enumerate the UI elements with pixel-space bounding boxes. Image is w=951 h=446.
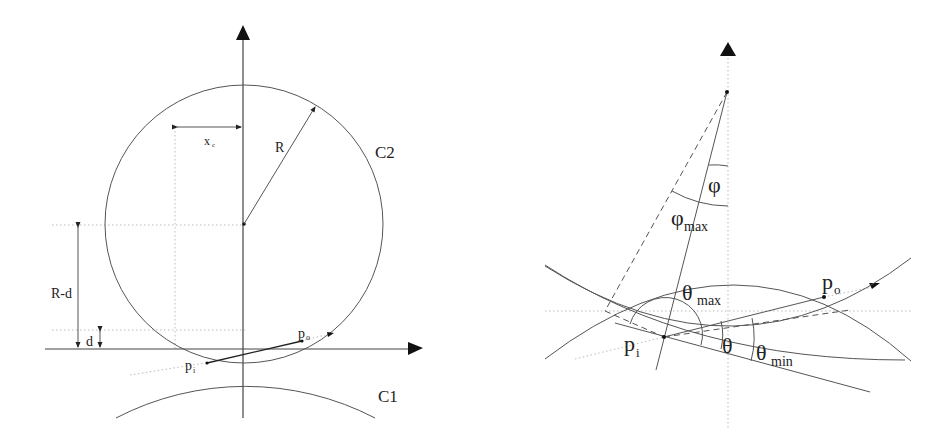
label-theta-max: θ	[682, 280, 693, 305]
label-po-subscript: o	[834, 282, 841, 297]
label-pi: p	[624, 331, 635, 356]
label-po: p	[298, 326, 305, 341]
po-point	[822, 295, 826, 299]
label-R-minus-d: R-d	[51, 286, 72, 301]
label-theta-max-subscript: max	[697, 293, 721, 308]
radius-R-arrow	[244, 107, 315, 224]
phi-max-dashed-line	[605, 92, 727, 311]
pi-incoming-dotted-line	[575, 337, 664, 359]
label-po: p	[822, 269, 833, 294]
label-pi-subscript: i	[193, 366, 196, 375]
label-R: R	[275, 140, 285, 155]
horizontal-axis-arrowhead-icon	[408, 342, 423, 355]
label-theta-min: θ	[756, 340, 767, 365]
right-diagram: φ φ max θ max θ θ min p o p i	[545, 42, 912, 428]
label-C2: C2	[375, 143, 395, 162]
vertical-axis-arrowhead-icon	[720, 42, 736, 56]
label-xc: x	[204, 134, 210, 148]
left-diagram: x c R C2 C1 R-d d p o p i	[45, 25, 423, 418]
circle-C1-arc	[116, 386, 375, 418]
label-theta-min-subscript: min	[771, 354, 793, 369]
vertical-axis-arrowhead-icon	[236, 25, 250, 40]
label-C1: C1	[378, 387, 398, 406]
apex-point	[725, 90, 729, 94]
label-phi-max: φ	[671, 205, 684, 230]
po-direction-arrowhead-icon	[869, 283, 880, 289]
label-po-subscript: o	[306, 333, 310, 342]
pi-point	[662, 335, 666, 339]
phi-angle-arc	[709, 165, 728, 166]
label-theta: θ	[722, 333, 733, 358]
pi-po-segment	[207, 341, 302, 363]
label-pi: p	[185, 358, 192, 373]
label-pi-subscript: i	[636, 345, 640, 360]
figure-canvas: x c R C2 C1 R-d d p o p i	[0, 0, 951, 446]
pi-point	[205, 361, 208, 364]
label-xc-subscript: c	[212, 141, 215, 149]
circle-b-arc	[545, 258, 911, 326]
label-phi-max-subscript: max	[684, 219, 708, 234]
po-direction-arrowhead-icon	[327, 332, 334, 337]
label-d: d	[86, 334, 93, 349]
label-phi: φ	[708, 172, 721, 197]
